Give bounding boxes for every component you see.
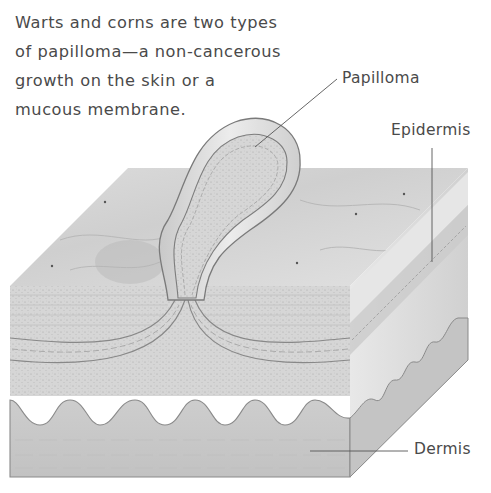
caption-line: of papilloma—a non-cancerous xyxy=(15,37,315,66)
epidermis-front-face xyxy=(10,286,350,396)
caption-text: Warts and corns are two types of papillo… xyxy=(15,8,315,124)
dermis-front-face xyxy=(10,400,350,477)
caption-line: Warts and corns are two types xyxy=(15,8,315,37)
epidermis-label: Epidermis xyxy=(391,121,471,139)
caption-line: growth on the skin or a xyxy=(15,66,315,95)
papilloma-label: Papilloma xyxy=(342,69,420,87)
caption-line: mucous membrane. xyxy=(15,95,315,124)
dermis-label: Dermis xyxy=(414,440,471,458)
